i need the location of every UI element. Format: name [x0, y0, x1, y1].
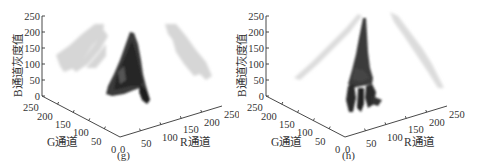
svg-text:200: 200	[24, 27, 40, 38]
svg-text:0: 0	[335, 144, 340, 155]
projection-rb-plane	[165, 24, 212, 80]
z-axis-label-g: B通道灰度值	[11, 33, 24, 97]
svg-text:0: 0	[111, 144, 116, 155]
svg-text:50: 50	[315, 136, 326, 147]
svg-text:200: 200	[248, 27, 264, 38]
svg-text:50: 50	[366, 138, 377, 149]
svg-text:0: 0	[35, 91, 40, 102]
svg-text:200: 200	[204, 117, 220, 128]
caption-h: (h)	[342, 149, 355, 162]
z-tick-labels-g: 250 200 150 100 50 0	[24, 11, 40, 102]
z-tick-labels-h: 250 200 150 100 50 0	[248, 11, 264, 102]
plot-panel-h: 250 200 150 100 50 0 250 200 150 100 50 …	[232, 0, 471, 167]
svg-text:50: 50	[141, 138, 152, 149]
point-cloud-g	[106, 32, 150, 104]
svg-text:200: 200	[261, 111, 277, 122]
svg-text:200: 200	[429, 117, 445, 128]
svg-text:150: 150	[408, 124, 424, 135]
g-axis-label-h: G通道	[271, 135, 302, 148]
r-axis-label-h: R通道	[404, 135, 435, 148]
svg-text:100: 100	[387, 132, 403, 143]
svg-text:150: 150	[24, 43, 40, 54]
svg-text:250: 250	[248, 11, 264, 22]
svg-text:50: 50	[30, 75, 41, 86]
svg-text:0: 0	[259, 91, 264, 102]
g-axis-label-g: G通道	[47, 135, 78, 148]
svg-text:150: 150	[248, 43, 264, 54]
svg-text:150: 150	[279, 119, 295, 130]
projection-rb-plane	[390, 12, 444, 88]
svg-text:100: 100	[248, 59, 264, 70]
svg-text:150: 150	[55, 119, 71, 130]
svg-text:100: 100	[24, 59, 40, 70]
svg-text:50: 50	[254, 75, 265, 86]
3d-scatter-plot-h: 250 200 150 100 50 0 250 200 150 100 50 …	[232, 0, 478, 167]
r-axis-label-g: R通道	[180, 135, 211, 148]
projection-gb-plane	[294, 14, 362, 80]
plot-panel-g: 250 200 150 100 50 0 250 200 150 100 50 …	[0, 0, 239, 167]
svg-text:50: 50	[91, 136, 102, 147]
svg-text:100: 100	[162, 132, 178, 143]
svg-text:250: 250	[24, 11, 40, 22]
projection-gb-plane	[56, 24, 108, 72]
3d-scatter-plot-g: 250 200 150 100 50 0 250 200 150 100 50 …	[0, 0, 239, 167]
svg-text:250: 250	[449, 109, 465, 120]
svg-text:150: 150	[183, 124, 199, 135]
svg-text:200: 200	[37, 111, 53, 122]
z-axis-label-h: B通道灰度值	[235, 33, 248, 97]
caption-g: (g)	[117, 149, 130, 162]
point-cloud-h	[346, 18, 382, 112]
